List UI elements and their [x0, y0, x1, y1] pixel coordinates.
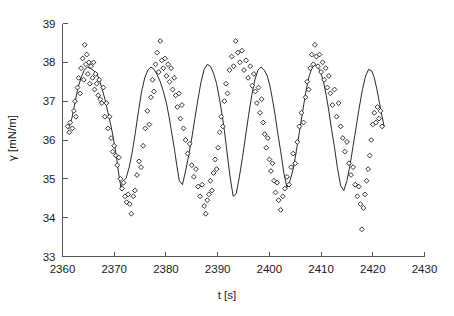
data-point-marker [278, 208, 283, 213]
data-point-marker [358, 202, 363, 207]
y-tick-label: 37 [43, 95, 56, 107]
x-tick-label: 2400 [257, 263, 283, 275]
data-point-marker [316, 64, 321, 69]
data-point-marker [233, 39, 238, 44]
y-tick-label: 39 [43, 18, 56, 30]
data-point-marker [211, 171, 216, 176]
data-point-marker [194, 167, 199, 172]
data-point-marker [81, 77, 86, 82]
data-point-marker [164, 74, 169, 79]
data-point-marker [276, 198, 281, 203]
data-point-marker [334, 114, 339, 119]
data-point-marker [229, 54, 234, 59]
data-point-marker [246, 75, 251, 80]
data-point-marker [340, 136, 345, 141]
data-point-marker [265, 136, 270, 141]
data-point-marker [208, 178, 213, 183]
data-point-marker [308, 66, 313, 71]
data-point-marker [80, 56, 85, 61]
data-point-marker [115, 163, 120, 168]
chart-figure: 23602370238023902400241024202430 3334353… [0, 0, 454, 316]
data-point-marker [222, 99, 227, 104]
data-point-marker [71, 108, 76, 113]
data-point-marker [338, 124, 343, 129]
data-point-marker [152, 89, 157, 94]
data-point-marker [205, 198, 210, 203]
data-point-marker [120, 186, 125, 191]
data-point-marker [88, 81, 93, 86]
data-point-marker [242, 68, 247, 73]
data-point-marker [213, 157, 218, 162]
data-point-marker [84, 52, 89, 57]
data-point-marker [325, 85, 330, 90]
data-point-marker [191, 174, 196, 179]
data-point-marker [139, 165, 144, 170]
data-point-marker [251, 72, 256, 77]
data-point-marker [91, 60, 96, 65]
data-point-marker [363, 192, 368, 197]
data-point-marker [158, 39, 163, 44]
data-point-marker [330, 103, 335, 108]
data-point-marker [153, 62, 158, 67]
data-point-marker [326, 74, 331, 79]
data-point-marker [210, 188, 215, 193]
data-point-marker [94, 81, 99, 86]
data-point-marker [273, 190, 278, 195]
data-point-marker [82, 42, 87, 47]
data-point-marker [303, 95, 308, 100]
data-point-marker [258, 110, 263, 115]
data-point-marker [262, 132, 267, 137]
y-tick-label: 33 [43, 251, 56, 263]
data-point-marker [141, 143, 146, 148]
data-point-marker [161, 66, 166, 71]
data-point-marker [166, 62, 171, 67]
y-tick-label: 34 [43, 212, 56, 224]
data-point-marker [378, 108, 383, 113]
data-point-marker [280, 194, 285, 199]
data-point-marker [169, 66, 174, 71]
x-tick-label: 2420 [360, 263, 386, 275]
data-point-marker [198, 194, 203, 199]
data-point-marker [259, 97, 264, 102]
x-tick-label: 2410 [308, 263, 334, 275]
data-point-marker [305, 79, 310, 84]
data-point-marker [311, 62, 316, 67]
data-point-marker [79, 66, 84, 71]
y-tick-label: 38 [43, 56, 56, 68]
data-point-marker [253, 89, 258, 94]
data-point-marker [106, 126, 111, 131]
data-point-marker [360, 227, 365, 232]
data-point-marker [244, 58, 249, 63]
data-point-marker [351, 165, 356, 170]
data-point-marker [189, 163, 194, 168]
data-point-marker [214, 167, 219, 172]
data-point-marker [75, 85, 80, 90]
data-point-marker [323, 66, 328, 71]
data-point-marker [225, 91, 230, 96]
data-point-marker [73, 99, 78, 104]
data-point-marker [183, 138, 188, 143]
data-point-marker [90, 75, 95, 80]
data-point-marker [361, 206, 366, 211]
data-point-marker [261, 120, 266, 125]
scatter-plot: 23602370238023902400241024202430 3334353… [0, 0, 454, 316]
data-point-marker [332, 87, 337, 92]
data-point-marker [131, 194, 136, 199]
data-point-marker [143, 126, 148, 131]
x-tick-label: 2430 [412, 263, 438, 275]
data-point-marker [336, 101, 341, 106]
data-point-marker [227, 68, 232, 73]
x-tick-label: 2390 [205, 263, 231, 275]
data-point-marker [320, 60, 325, 65]
data-point-marker [112, 143, 117, 148]
x-tick-label: 2380 [153, 263, 179, 275]
data-point-marker [345, 140, 350, 145]
data-point-marker [328, 91, 333, 96]
data-point-marker [180, 103, 185, 108]
data-point-marker [85, 72, 90, 77]
data-point-marker [170, 87, 175, 92]
data-point-marker [104, 101, 109, 106]
data-point-marker [150, 77, 155, 82]
data-point-marker [237, 60, 242, 65]
data-point-marker [291, 151, 296, 156]
